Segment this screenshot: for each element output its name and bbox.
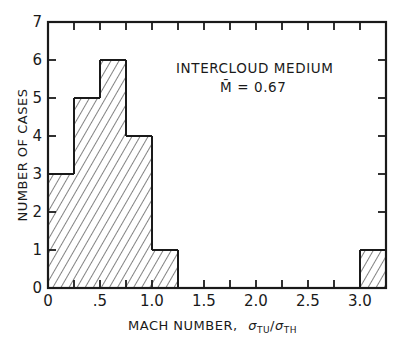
x-tick-label: 3.0 <box>348 292 372 310</box>
histogram-bars <box>48 60 386 288</box>
annotation-mean-mach: M̄ = 0.67 <box>220 79 286 95</box>
histogram-bar <box>48 174 74 288</box>
x-axis-title: MACH NUMBER, σTU/σTH <box>128 318 297 335</box>
histogram-bar <box>360 250 386 288</box>
histogram-chart: 01234567 0.51.01.52.02.53.0 NUMBER OF CA… <box>0 0 401 346</box>
histogram-bar <box>74 98 100 288</box>
histogram-bar <box>100 60 126 288</box>
y-tick-label: 0 <box>32 279 42 297</box>
x-tick-label: 2.5 <box>296 292 320 310</box>
y-tick-label: 3 <box>32 165 42 183</box>
y-tick-label: 1 <box>32 241 42 259</box>
y-tick-label: 2 <box>32 203 42 221</box>
y-axis-title: NUMBER OF CASES <box>15 89 30 222</box>
y-tick-label: 6 <box>32 51 42 69</box>
x-axis-title-main: MACH NUMBER, <box>128 318 238 333</box>
y-tick-label: 5 <box>32 89 42 107</box>
x-tick-label: 2.0 <box>244 292 268 310</box>
x-tick-label: 1.0 <box>140 292 164 310</box>
y-tick-label: 4 <box>32 127 42 145</box>
histogram-bar <box>152 250 178 288</box>
x-tick-label: 1.5 <box>192 292 216 310</box>
histogram-bar <box>126 136 152 288</box>
y-tick-label: 7 <box>32 13 42 31</box>
x-tick-label: 0 <box>43 292 53 310</box>
annotation-medium: INTERCLOUD MEDIUM <box>176 60 334 76</box>
x-tick-label: .5 <box>93 292 107 310</box>
